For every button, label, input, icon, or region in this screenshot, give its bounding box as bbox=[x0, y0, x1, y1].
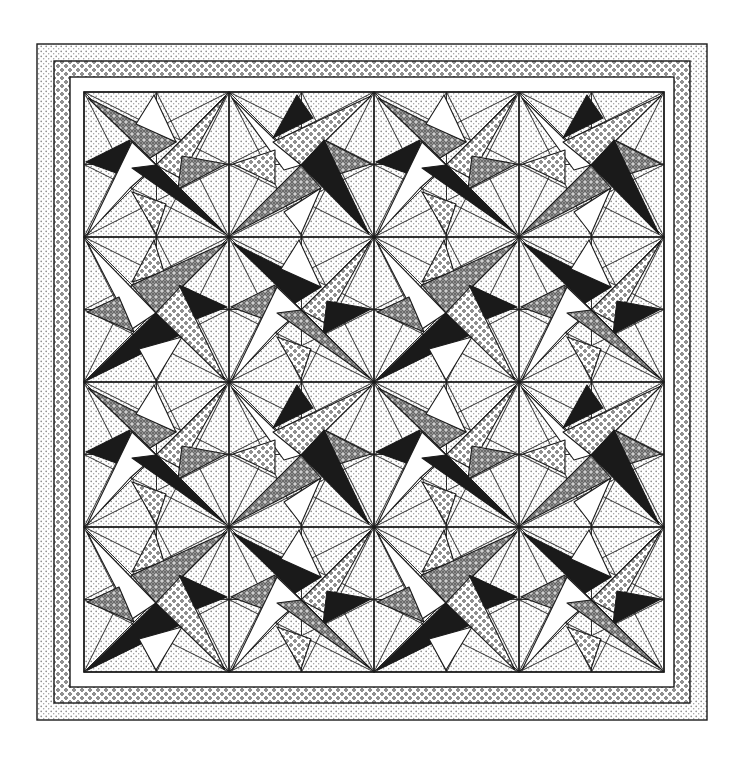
quilt-illustration bbox=[0, 0, 742, 758]
quilt-block-3-0 bbox=[84, 527, 229, 672]
quilt-block-1-2 bbox=[374, 237, 519, 382]
quilt-block-1-0 bbox=[84, 237, 229, 382]
quilt-block-3-1 bbox=[229, 527, 374, 672]
quilt-block-2-2 bbox=[374, 382, 519, 527]
quilt-block-1-3 bbox=[519, 237, 664, 382]
quilt-block-3-3 bbox=[519, 527, 664, 672]
quilt-block-1-1 bbox=[229, 237, 374, 382]
quilt-block-0-1 bbox=[229, 92, 374, 237]
quilt-block-2-0 bbox=[84, 382, 229, 527]
quilt-block-0-3 bbox=[519, 92, 664, 237]
quilt-block-0-0 bbox=[84, 92, 229, 237]
quilt-block-2-1 bbox=[229, 382, 374, 527]
quilt-blocks bbox=[84, 92, 664, 672]
quilt-block-2-3 bbox=[519, 382, 664, 527]
quilt-block-3-2 bbox=[374, 527, 519, 672]
quilt-block-0-2 bbox=[374, 92, 519, 237]
